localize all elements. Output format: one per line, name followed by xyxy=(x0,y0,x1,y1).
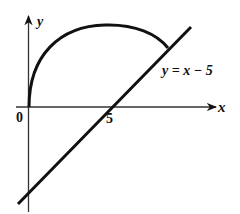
tick-label-5: 5 xyxy=(106,111,113,126)
coordinate-diagram: y x 0 5 y = x − 5 xyxy=(0,0,240,214)
origin-label: 0 xyxy=(16,110,23,125)
y-axis-label: y xyxy=(35,14,44,29)
semicircle-arc xyxy=(29,25,168,107)
line-equation-label: y = x − 5 xyxy=(160,63,213,78)
x-axis-label: x xyxy=(217,99,226,115)
